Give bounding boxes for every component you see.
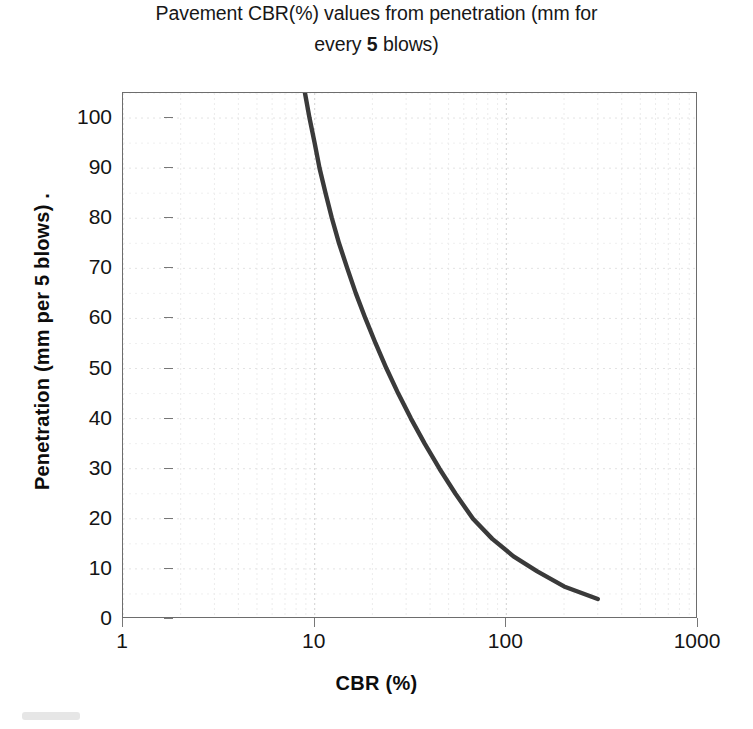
y-tick-label: 60 bbox=[52, 305, 112, 329]
y-tick-mark bbox=[164, 267, 173, 268]
y-tick-mark bbox=[164, 518, 173, 519]
y-axis-ticks: 0102030405060708090100 bbox=[48, 0, 112, 729]
y-tick-label: 30 bbox=[52, 456, 112, 480]
y-tick-label: 70 bbox=[52, 255, 112, 279]
y-axis-title: Penetration (mm per 5 blows) . bbox=[31, 122, 54, 562]
y-tick-label: 10 bbox=[52, 556, 112, 580]
x-tick-mark bbox=[314, 618, 315, 627]
x-axis-title: CBR (%) bbox=[0, 672, 753, 695]
plot-area bbox=[122, 92, 697, 618]
y-tick-mark bbox=[164, 568, 173, 569]
y-tick-label: 20 bbox=[52, 506, 112, 530]
y-tick-label: 90 bbox=[52, 155, 112, 179]
y-tick-label: 50 bbox=[52, 356, 112, 380]
x-tick-label: 100 bbox=[460, 629, 550, 653]
y-tick-label: 80 bbox=[52, 205, 112, 229]
x-tick-mark bbox=[505, 618, 506, 627]
y-tick-mark bbox=[164, 317, 173, 318]
scan-artifact bbox=[22, 712, 80, 720]
y-tick-label: 0 bbox=[52, 606, 112, 630]
x-tick-mark bbox=[122, 618, 123, 627]
x-tick-label: 10 bbox=[269, 629, 359, 653]
y-tick-mark bbox=[164, 167, 173, 168]
y-tick-mark bbox=[164, 618, 173, 619]
y-tick-mark bbox=[164, 117, 173, 118]
y-tick-label: 100 bbox=[52, 105, 112, 129]
y-tick-mark bbox=[164, 418, 173, 419]
chart-canvas: 0102030405060708090100 1101001000 Penetr… bbox=[0, 0, 753, 729]
y-tick-mark bbox=[164, 468, 173, 469]
y-tick-mark bbox=[164, 368, 173, 369]
y-tick-label: 40 bbox=[52, 406, 112, 430]
x-tick-mark bbox=[697, 618, 698, 627]
x-tick-label: 1000 bbox=[652, 629, 742, 653]
gridlines bbox=[123, 93, 697, 618]
y-tick-mark bbox=[164, 217, 173, 218]
x-tick-label: 1 bbox=[77, 629, 167, 653]
